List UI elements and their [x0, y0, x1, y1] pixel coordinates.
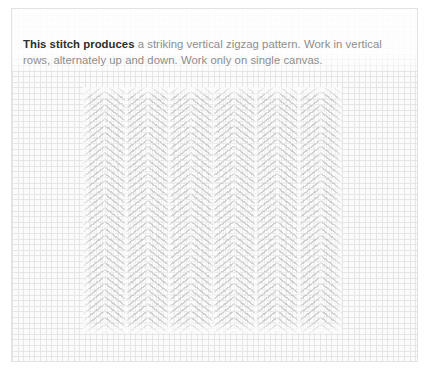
column-gutter: [210, 87, 216, 333]
chevron-right-half: [321, 87, 342, 333]
stitch-column: [169, 87, 212, 333]
column-gutter: [253, 87, 259, 333]
stitch-column: [126, 87, 169, 333]
column-gutter: [296, 87, 302, 333]
screenshot-root: This stitch produces a striking vertical…: [0, 0, 430, 377]
stitch-column: [83, 87, 126, 333]
column-spine: [232, 87, 237, 333]
stitch-description: This stitch produces a striking vertical…: [23, 37, 407, 68]
column-spine: [102, 87, 107, 333]
stitch-description-lead: This stitch produces: [23, 38, 134, 50]
stitch-column: [299, 87, 342, 333]
column-spine: [145, 87, 150, 333]
column-spine: [188, 87, 193, 333]
column-spine: [275, 87, 280, 333]
column-spine: [318, 87, 323, 333]
stitch-column: [213, 87, 256, 333]
stitch-columns: [83, 87, 342, 333]
vertical-zigzag-stitch-sample: [83, 87, 342, 333]
content-card: This stitch produces a striking vertical…: [11, 8, 418, 362]
column-gutter: [123, 87, 129, 333]
stitch-column: [256, 87, 299, 333]
column-gutter: [166, 87, 172, 333]
